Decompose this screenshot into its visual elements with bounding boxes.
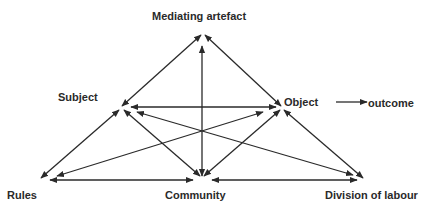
edge-artefact-object xyxy=(205,35,281,106)
edge-object-division xyxy=(284,110,363,178)
node-community: Community xyxy=(165,190,226,201)
edge-object-community xyxy=(204,110,280,176)
edge-subject-division xyxy=(137,112,353,175)
node-division-of-labour: Division of labour xyxy=(325,190,418,201)
edge-subject-rules xyxy=(41,110,119,178)
node-object: Object xyxy=(284,97,318,108)
edge-subject-artefact xyxy=(122,35,201,106)
node-subject: Subject xyxy=(58,92,98,103)
activity-triangle-diagram xyxy=(0,0,427,212)
node-rules: Rules xyxy=(7,190,37,201)
edge-object-rules xyxy=(57,112,263,176)
node-outcome: outcome xyxy=(368,98,414,109)
node-mediating-artefact: Mediating artefact xyxy=(152,11,246,22)
